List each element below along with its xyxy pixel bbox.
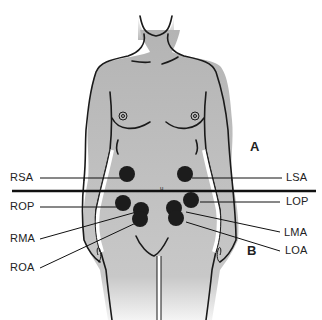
spot-lsa bbox=[177, 166, 193, 182]
label-rma: RMA bbox=[10, 232, 35, 244]
label-rsa: RSA bbox=[10, 171, 33, 183]
region-label-a: A bbox=[250, 139, 259, 154]
female-torso-diagram: u bbox=[0, 0, 322, 320]
region-label-b: B bbox=[247, 243, 256, 258]
label-roa: ROA bbox=[10, 261, 34, 273]
spot-roa bbox=[132, 211, 148, 227]
label-lsa: LSA bbox=[286, 171, 307, 183]
label-lop: LOP bbox=[286, 195, 309, 207]
spot-rop bbox=[115, 195, 131, 211]
label-rop: ROP bbox=[10, 200, 34, 212]
label-loa: LOA bbox=[285, 244, 308, 256]
spot-loa bbox=[168, 210, 184, 226]
spot-lop bbox=[183, 192, 199, 208]
label-lma: LMA bbox=[284, 226, 307, 238]
spot-rsa bbox=[119, 166, 135, 182]
